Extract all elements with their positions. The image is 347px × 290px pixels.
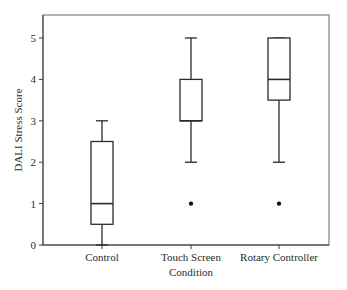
iqr-box — [91, 142, 113, 225]
x-axis-title: Condition — [169, 266, 214, 278]
box-control — [91, 121, 113, 245]
box-touch-screen — [180, 38, 202, 206]
y-axis: 012345 — [31, 15, 44, 251]
iqr-box — [180, 79, 202, 120]
y-tick-label: 5 — [31, 32, 37, 44]
x-tick-label: Rotary Controller — [240, 251, 318, 263]
y-tick-label: 2 — [31, 156, 37, 168]
y-tick-label: 1 — [31, 198, 37, 210]
x-tick-label: Touch Screen — [161, 251, 222, 263]
y-tick-label: 4 — [31, 73, 37, 85]
iqr-box — [268, 38, 290, 100]
box-rotary-controller — [268, 38, 290, 206]
outlier-point — [189, 201, 193, 205]
y-tick-label: 0 — [31, 239, 37, 251]
y-tick-label: 3 — [31, 115, 37, 127]
x-tick-label: Control — [85, 251, 119, 263]
box-plot-chart: 012345 ControlTouch ScreenRotary Control… — [0, 0, 347, 290]
outlier-point — [277, 201, 281, 205]
box-series — [91, 38, 290, 245]
y-axis-title: DALI Stress Score — [12, 88, 24, 171]
x-axis: ControlTouch ScreenRotary Controller — [43, 245, 329, 263]
